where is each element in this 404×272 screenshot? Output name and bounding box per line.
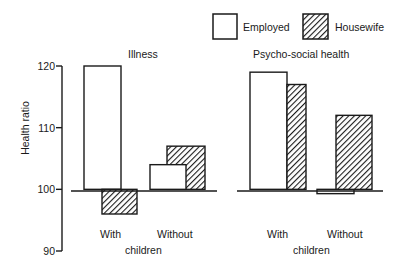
category-label-without-psychosocial: Without xyxy=(327,228,363,240)
y-tick-label: 90 xyxy=(43,245,55,257)
y-axis-label: Health ratio xyxy=(19,101,31,155)
panel-title-psychosocial: Psycho-social health xyxy=(253,48,349,60)
bar-employed-without xyxy=(150,165,186,190)
legend-swatch-employed xyxy=(213,14,237,39)
bar-employed-with xyxy=(250,72,287,189)
legend-swatch-housewife xyxy=(303,14,328,39)
bar-housewife-with xyxy=(287,85,306,190)
legend: Employed Housewife xyxy=(213,14,384,39)
bar-employed-with xyxy=(84,66,121,189)
x-axis-label-psychosocial: children xyxy=(293,244,330,256)
bars xyxy=(84,66,372,214)
bar-housewife-without xyxy=(336,115,372,189)
panel-title-illness: Illness xyxy=(128,48,158,60)
category-label-with-psychosocial: With xyxy=(267,228,288,240)
y-axis: 90100110120 Health ratio xyxy=(19,60,62,257)
legend-label-employed: Employed xyxy=(243,21,290,33)
y-tick-label: 110 xyxy=(38,122,55,134)
bar-housewife-with xyxy=(102,189,137,214)
y-tick-label: 120 xyxy=(37,60,55,72)
legend-label-housewife: Housewife xyxy=(335,21,384,33)
x-axis-label-illness: children xyxy=(125,244,162,256)
y-tick-label: 100 xyxy=(37,183,55,195)
category-label-without-illness: Without xyxy=(157,228,193,240)
category-label-with-illness: With xyxy=(100,228,121,240)
health-ratio-chart: Employed Housewife Illness Psycho-social… xyxy=(0,0,404,272)
